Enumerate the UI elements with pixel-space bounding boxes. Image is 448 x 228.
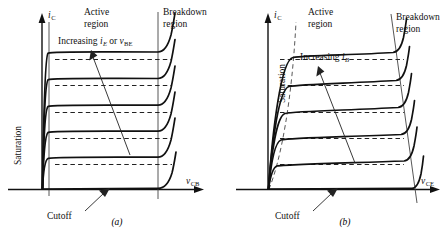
panel-a: iC vCB Active region Breakdown region In…	[8, 7, 207, 228]
panel-b-curve-2	[269, 101, 415, 190]
panel-b-cutoff-label: Cutoff	[275, 211, 300, 221]
panel-b: iC vCE Active region Breakdown region In…	[236, 7, 440, 228]
figure-container: iC vCB Active region Breakdown region In…	[0, 0, 448, 228]
panel-a-x-axis-label: vCB	[186, 176, 200, 187]
panel-a-breakdown-region-line1: Breakdown	[163, 7, 207, 17]
panel-b-caption: (b)	[339, 217, 350, 228]
panel-b-saturation-label: Saturation	[277, 64, 287, 103]
panel-a-active-region-line1: Active	[84, 7, 109, 17]
panel-b-active-region-line1: Active	[308, 7, 333, 17]
panel-b-x-axis-label: vCE	[421, 176, 434, 187]
panel-a-increasing-label: Increasing iE or vBE	[58, 36, 133, 47]
panel-b-curves	[269, 19, 424, 190]
panel-a-curve-4	[43, 40, 176, 190]
panel-a-y-axis-label: iC	[48, 10, 56, 21]
panel-b-saturation-boundary	[269, 22, 296, 189]
panel-b-increasing-label: Increasing iB	[300, 52, 349, 63]
panel-a-active-region-line2: region	[84, 19, 109, 29]
panel-b-breakdown-region-line2: region	[396, 24, 421, 34]
panel-a-curve-3	[43, 66, 176, 189]
panel-a-cutoff-label: Cutoff	[47, 211, 72, 221]
panel-a-saturation-label: Saturation	[13, 126, 23, 165]
bjt-characteristics-figure: iC vCB Active region Breakdown region In…	[0, 0, 448, 228]
panel-a-caption: (a)	[111, 217, 122, 228]
panel-b-y-axis-label: iC	[274, 10, 282, 21]
panel-a-breakdown-region-line2: region	[163, 19, 188, 29]
panel-b-increasing-arrow	[316, 66, 355, 163]
panel-b-cutoff-arrow	[313, 188, 338, 211]
panel-a-curve-2	[43, 92, 176, 189]
panel-b-breakdown-region-line1: Breakdown	[396, 12, 440, 22]
panel-a-cutoff-arrow	[85, 188, 110, 211]
panel-b-active-region-line2: region	[308, 19, 333, 29]
panel-b-curve-4	[269, 47, 410, 190]
panel-a-curve-1	[43, 118, 176, 189]
panel-a-increasing-arrow	[89, 50, 130, 155]
